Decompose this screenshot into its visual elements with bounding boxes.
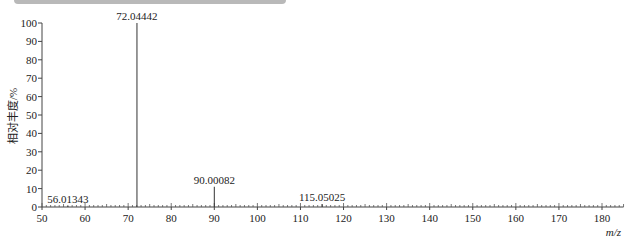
y-tick-label: 40 [26, 127, 38, 139]
y-tick-label: 90 [26, 35, 38, 47]
x-tick-label: 120 [335, 212, 352, 224]
x-tick-label: 180 [594, 212, 611, 224]
y-axis: 0102030405060708090100 [21, 17, 43, 213]
x-tick-label: 80 [166, 212, 178, 224]
x-tick-label: 110 [292, 212, 309, 224]
x-tick-label: 150 [465, 212, 482, 224]
peak-label: 56.01343 [47, 193, 89, 205]
x-axis-title: m/z [606, 226, 622, 238]
peak-label: 90.00082 [194, 174, 235, 186]
x-tick-label: 60 [80, 212, 92, 224]
y-tick-label: 60 [26, 91, 38, 103]
y-tick-label: 80 [26, 54, 38, 66]
y-tick-label: 100 [21, 17, 38, 29]
x-tick-label: 160 [508, 212, 525, 224]
x-tick-label: 100 [249, 212, 266, 224]
y-tick-label: 70 [26, 72, 38, 84]
x-tick-label: 50 [37, 212, 49, 224]
x-tick-label: 170 [551, 212, 568, 224]
y-tick-label: 50 [26, 109, 38, 121]
peak-label: 115.05025 [299, 191, 346, 203]
x-tick-label: 140 [421, 212, 438, 224]
x-axis: 5060708090100110120130140150160170180 [37, 203, 624, 224]
x-tick-label: 130 [378, 212, 395, 224]
y-axis-title: 相对丰度/% [6, 88, 19, 144]
x-tick-label: 70 [123, 212, 135, 224]
peak-label: 72.04442 [116, 10, 157, 22]
y-tick-label: 30 [26, 146, 38, 158]
y-tick-label: 10 [26, 183, 38, 195]
x-tick-label: 90 [209, 212, 221, 224]
y-tick-label: 20 [26, 164, 38, 176]
peaks: 56.0134372.0444290.00082115.05025 [47, 10, 346, 207]
mass-spectrum-chart: 0102030405060708090100 50607080901001101… [0, 0, 642, 249]
